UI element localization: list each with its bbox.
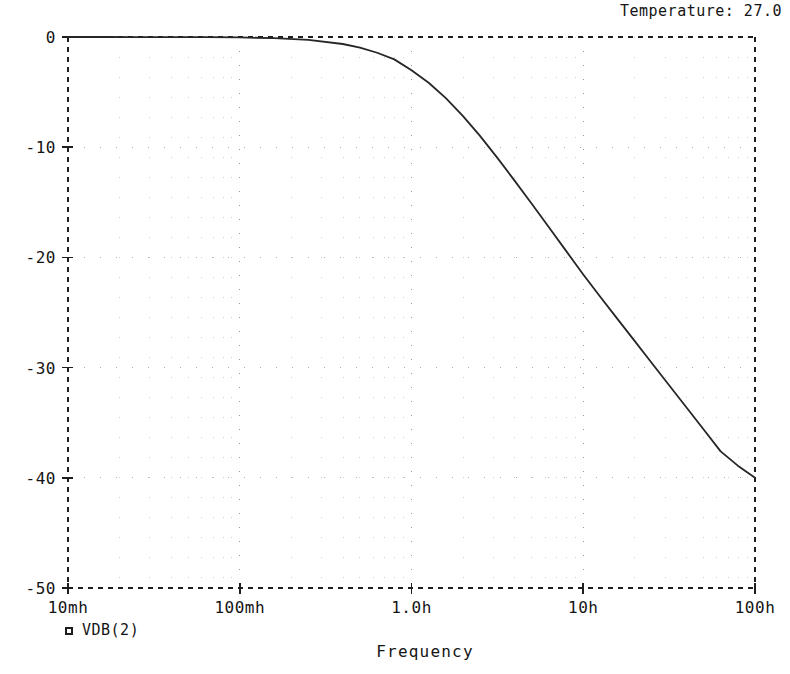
- y-tick-label: 0: [46, 28, 56, 47]
- bode-plot-chart: 0-10-20-30-40-50 10mh100mh1.0h10h100h Fr…: [0, 0, 790, 674]
- legend-marker-square-icon: [66, 628, 72, 634]
- y-tick-label: -50: [26, 579, 56, 598]
- spice-plot-window: Temperature: 27.0 0-10-20-30-40-50 10mh1…: [0, 0, 790, 674]
- y-tick-label: -20: [26, 248, 56, 267]
- y-tick-label: -40: [26, 469, 56, 488]
- y-tick-label: -10: [26, 138, 56, 157]
- x-tick-label: 100mh: [214, 598, 265, 617]
- x-axis-tick-labels: 10mh100mh1.0h10h100h: [48, 598, 776, 617]
- legend[interactable]: VDB(2): [66, 621, 139, 639]
- y-axis-tick-labels: 0-10-20-30-40-50: [26, 28, 56, 598]
- y-tick-label: -30: [26, 359, 56, 378]
- grid-layer: [68, 37, 755, 588]
- x-tick-label: 10mh: [48, 598, 89, 617]
- x-tick-label: 100h: [735, 598, 776, 617]
- x-tick-label: 1.0h: [391, 598, 432, 617]
- plot-frame: [68, 37, 755, 588]
- legend-label[interactable]: VDB(2): [82, 621, 139, 639]
- x-tick-label: 10h: [568, 598, 598, 617]
- axis-ticks: [62, 37, 755, 594]
- x-axis-title: Frequency: [376, 642, 474, 661]
